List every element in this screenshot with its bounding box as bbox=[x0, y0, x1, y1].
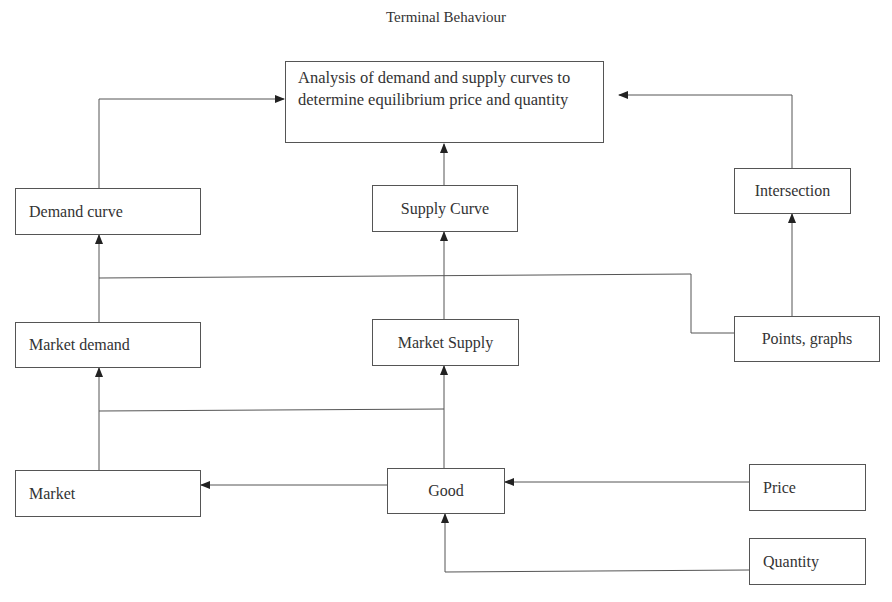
node-market: Market bbox=[15, 470, 201, 517]
node-price-label: Price bbox=[763, 479, 796, 497]
node-quantity-label: Quantity bbox=[763, 553, 819, 571]
node-intersection: Intersection bbox=[734, 168, 851, 214]
node-points-graphs-label: Points, graphs bbox=[762, 330, 853, 348]
node-demand-curve-label: Demand curve bbox=[29, 203, 123, 221]
node-good-label: Good bbox=[428, 482, 464, 500]
edge-quantity-to-good bbox=[445, 514, 749, 572]
node-market-supply: Market Supply bbox=[372, 319, 519, 366]
edge-good-to-demand-column bbox=[99, 409, 444, 411]
node-demand-curve: Demand curve bbox=[15, 188, 201, 235]
node-intersection-label: Intersection bbox=[755, 182, 831, 200]
edge-demand-curve-to-analysis bbox=[99, 99, 284, 188]
node-market-demand: Market demand bbox=[15, 322, 201, 368]
node-analysis-label: Analysis of demand and supply curves to … bbox=[298, 67, 593, 111]
node-supply-curve-label: Supply Curve bbox=[401, 200, 489, 218]
node-market-supply-label: Market Supply bbox=[398, 334, 494, 352]
edge-intersection-to-analysis bbox=[619, 95, 792, 168]
node-market-label: Market bbox=[29, 485, 75, 503]
node-analysis: Analysis of demand and supply curves to … bbox=[285, 61, 604, 143]
node-price: Price bbox=[749, 464, 866, 511]
node-supply-curve: Supply Curve bbox=[372, 185, 518, 232]
node-good: Good bbox=[387, 468, 505, 514]
node-quantity: Quantity bbox=[749, 538, 866, 585]
node-market-demand-label: Market demand bbox=[29, 336, 130, 354]
node-points-graphs: Points, graphs bbox=[734, 316, 880, 362]
